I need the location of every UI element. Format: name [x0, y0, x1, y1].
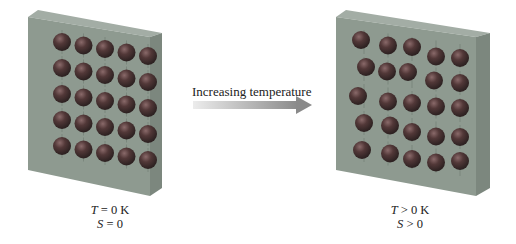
atom-sphere [75, 37, 93, 55]
atom-sphere [355, 114, 373, 132]
atom-sphere [451, 49, 469, 67]
atom-sphere [451, 74, 469, 92]
atom-sphere [427, 98, 445, 116]
atom-sphere [427, 128, 445, 146]
atom-sphere [139, 73, 157, 91]
atom-sphere [399, 63, 417, 81]
temperature-label: T > 0 K [370, 203, 450, 217]
atom-sphere [96, 66, 114, 84]
atom-sphere [139, 47, 157, 65]
atom-sphere [53, 85, 71, 103]
crystal-panel-ordered [28, 10, 162, 196]
atom-sphere [75, 141, 93, 159]
atom-sphere [53, 111, 71, 129]
atom-sphere [451, 128, 469, 146]
atom-sphere [427, 48, 445, 66]
atom-sphere [451, 152, 469, 170]
crystal-panel-disordered [336, 10, 490, 196]
temperature-label: T = 0 K [70, 203, 150, 217]
atom-sphere [53, 59, 71, 77]
atom-sphere [353, 141, 371, 159]
atom-sphere [427, 154, 445, 172]
atom-sphere [352, 31, 370, 49]
atom-sphere [53, 137, 71, 155]
atom-sphere [425, 72, 443, 90]
entropy-label: S > 0 [370, 217, 450, 231]
atom-sphere [53, 33, 71, 51]
atom-sphere [451, 99, 469, 117]
atom-sphere [379, 37, 397, 55]
arrow-shaft [193, 101, 298, 109]
atom-sphere [96, 118, 114, 136]
atom-sphere [139, 151, 157, 169]
atom-sphere [381, 117, 399, 135]
entropy-label: S = 0 [70, 217, 150, 231]
panel-side-face [476, 33, 490, 196]
atom-sphere [381, 145, 399, 163]
atom-sphere [357, 58, 375, 76]
atom-sphere [75, 63, 93, 81]
atom-sphere [139, 125, 157, 143]
arrow-label: Increasing temperature [192, 84, 311, 100]
atom-sphere [118, 122, 136, 140]
state-label-ordered: T = 0 K S = 0 [70, 203, 150, 231]
atom-sphere [96, 40, 114, 58]
atom-sphere [349, 87, 367, 105]
atom-sphere [75, 89, 93, 107]
atom-sphere [403, 123, 421, 141]
atom-sphere [118, 70, 136, 88]
atom-sphere [96, 92, 114, 110]
atom-sphere [403, 94, 421, 112]
atom-sphere [118, 96, 136, 114]
atom-sphere [118, 44, 136, 62]
atom-sphere [403, 150, 421, 168]
atom-sphere [379, 93, 397, 111]
atom-sphere [96, 144, 114, 162]
atom-sphere [139, 99, 157, 117]
atom-sphere [378, 63, 396, 81]
atom-sphere [118, 148, 136, 166]
state-label-disordered: T > 0 K S > 0 [370, 203, 450, 231]
atom-sphere [403, 38, 421, 56]
atom-sphere [75, 115, 93, 133]
